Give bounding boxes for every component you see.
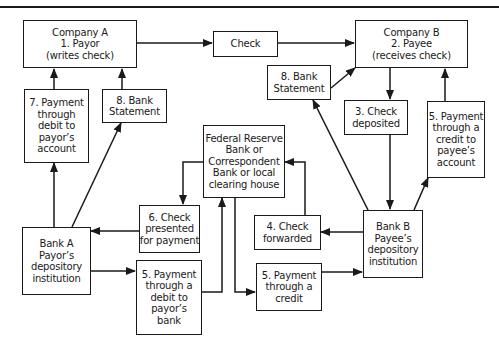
node-payment-credit: 5. Payment through a credit	[256, 263, 322, 311]
node-federal-reserve: Federal Reserve Bank or Correspondent Ba…	[203, 125, 285, 198]
node-label-line: depository	[367, 244, 418, 256]
node-label-line: through	[38, 109, 76, 121]
node-label-line: 6. Check	[149, 212, 191, 224]
node-label-line: payee’s	[437, 145, 475, 157]
node-label-line: 8. Bank	[116, 95, 152, 107]
node-label-line: debit to	[38, 120, 75, 132]
node-bank-b: Bank B Payee’s depository institution	[363, 210, 423, 278]
node-label-line: Statement	[274, 83, 325, 95]
node-label-line: Bank or local	[213, 167, 275, 179]
node-bank-statement-b: 8. Bank Statement	[267, 65, 331, 100]
node-label-line: credit to	[436, 134, 476, 146]
node-label-line: 4. Check	[267, 221, 309, 233]
node-label-line: Federal Reserve	[205, 133, 282, 145]
node-payment-debit-payor-bank: 5. Payment through a debit to payor’s ba…	[136, 260, 202, 335]
node-bank-a: Bank A Payor’s depository institution	[22, 227, 91, 295]
node-label-line: for payment	[140, 235, 199, 247]
node-check-forwarded: 4. Check forwarded	[254, 215, 321, 250]
node-label-line: Bank or	[225, 144, 262, 156]
node-label-line: (receives check)	[372, 50, 451, 62]
node-label-line: through a	[146, 280, 193, 292]
node-company-b: Company B 2. Payee (receives check)	[355, 20, 468, 68]
node-label-line: institution	[369, 256, 417, 268]
node-label-line: forwarded	[263, 233, 312, 245]
node-label-line: through a	[433, 122, 480, 134]
node-label-line: through a	[266, 281, 313, 293]
node-label-line: 2. Payee	[391, 38, 432, 50]
node-label-line: account	[37, 143, 75, 155]
node-label-line: 5. Payment	[262, 270, 317, 282]
node-label-line: bank	[157, 315, 181, 327]
node-label-line: debit to	[150, 292, 187, 304]
node-label-line: institution	[32, 273, 80, 285]
node-label-line: Payee’s	[375, 233, 412, 245]
node-payment-debit-payor-account: 7. Payment through debit to payor’s acco…	[24, 89, 89, 163]
node-label-line: Statement	[109, 106, 160, 118]
node-check-presented: 6. Check presented for payment	[139, 205, 200, 253]
node-label-line: depository	[31, 261, 82, 273]
node-label-line: deposited	[352, 118, 400, 130]
node-label-line: Bank A	[40, 238, 74, 250]
node-label-line: clearing house	[209, 179, 280, 191]
node-label-line: Check	[231, 38, 261, 50]
node-label-line: Payor’s	[39, 250, 74, 262]
node-company-a: Company A 1. Payor (writes check)	[23, 20, 137, 68]
node-label-line: 5. Payment	[429, 111, 484, 123]
node-label-line: 7. Payment	[29, 97, 84, 109]
node-label-line: payor’s	[39, 132, 75, 144]
node-label-line: Bank B	[376, 221, 410, 233]
node-check-deposited: 3. Check deposited	[344, 100, 408, 135]
node-label-line: Company A	[52, 27, 108, 39]
node-label-line: 3. Check	[355, 106, 397, 118]
node-label-line: (writes check)	[46, 50, 114, 62]
node-label-line: 5. Payment	[142, 269, 197, 281]
node-payment-credit-payee-account: 5. Payment through a credit to payee’s a…	[427, 101, 485, 178]
node-label-line: 1. Payor	[61, 38, 100, 50]
node-label-line: presented	[145, 223, 194, 235]
node-label-line: Company B	[384, 27, 440, 39]
node-label-line: payor’s	[151, 303, 187, 315]
node-bank-statement-a: 8. Bank Statement	[102, 89, 167, 123]
node-check: Check	[213, 31, 278, 57]
node-label-line: credit	[275, 293, 302, 305]
node-label-line: 8. Bank	[281, 71, 317, 83]
node-label-line: account	[437, 157, 475, 169]
node-label-line: Correspondent	[208, 156, 279, 168]
